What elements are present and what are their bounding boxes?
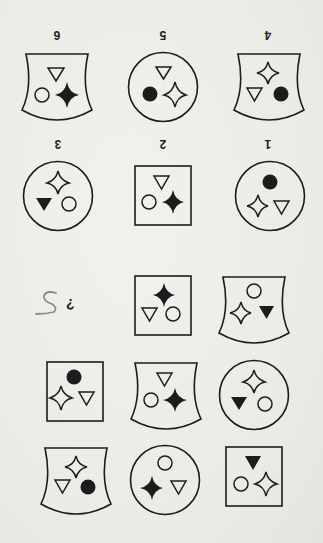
triangle-outline-icon bbox=[154, 176, 169, 189]
option-label-5: 5 bbox=[153, 28, 173, 42]
star-outline-icon bbox=[247, 195, 268, 217]
star-filled-icon bbox=[153, 283, 175, 307]
triangle-outline-icon bbox=[48, 68, 64, 81]
option-label-3: 3 bbox=[48, 137, 68, 151]
square-frame bbox=[135, 166, 191, 225]
triangle-filled-icon bbox=[245, 456, 261, 470]
triangle-outline-icon bbox=[171, 481, 186, 494]
circle-outline-icon bbox=[62, 197, 76, 211]
option-6[interactable] bbox=[20, 52, 94, 124]
matrix-cell-2-2 bbox=[129, 361, 203, 433]
triangle-outline-icon bbox=[55, 480, 70, 493]
shield-frame bbox=[219, 277, 289, 343]
option-2[interactable] bbox=[134, 165, 193, 227]
triangle-outline-icon bbox=[79, 392, 94, 405]
star-outline-icon bbox=[243, 370, 265, 393]
circle-frame bbox=[129, 53, 198, 122]
matrix-cell-3-2 bbox=[129, 443, 201, 517]
star-outline-icon bbox=[65, 456, 87, 478]
option-3[interactable] bbox=[22, 159, 94, 233]
square-frame bbox=[226, 447, 282, 506]
circle-filled-icon bbox=[274, 87, 289, 102]
missing-cell-question-mark[interactable]: ¿ bbox=[66, 294, 75, 310]
star-outline-icon bbox=[47, 171, 69, 194]
circle-frame bbox=[236, 162, 305, 231]
matrix-cell-1-2 bbox=[134, 275, 193, 337]
matrix-cell-3-3 bbox=[225, 446, 284, 508]
star-outline-icon bbox=[255, 472, 277, 496]
circle-outline-icon bbox=[166, 307, 180, 321]
triangle-outline-icon bbox=[157, 373, 172, 386]
star-outline-icon bbox=[257, 62, 279, 84]
matrix-cell-1-3 bbox=[217, 275, 291, 347]
circle-outline-icon bbox=[142, 195, 156, 209]
pencil-mark-5 bbox=[34, 290, 64, 316]
star-filled-icon bbox=[162, 190, 184, 214]
circle-outline-icon bbox=[258, 397, 272, 411]
star-outline-icon bbox=[230, 302, 251, 324]
star-filled-icon bbox=[55, 82, 79, 108]
triangle-outline-icon bbox=[274, 201, 289, 214]
matrix-cell-3-1 bbox=[39, 446, 113, 518]
triangle-filled-icon bbox=[231, 397, 247, 410]
option-label-2: 2 bbox=[153, 137, 173, 151]
circle-filled-icon bbox=[263, 175, 278, 190]
option-label-1: 1 bbox=[258, 137, 278, 151]
option-label-6: 6 bbox=[47, 28, 67, 42]
circle-outline-icon bbox=[247, 284, 261, 298]
triangle-outline-icon bbox=[247, 88, 262, 101]
option-1[interactable] bbox=[234, 159, 306, 233]
circle-outline-icon bbox=[35, 88, 49, 102]
matrix-cell-2-3 bbox=[218, 358, 290, 432]
star-outline-icon bbox=[50, 386, 72, 410]
circle-filled-icon bbox=[67, 370, 82, 385]
square-frame bbox=[135, 276, 191, 335]
triangle-outline-icon bbox=[142, 308, 157, 321]
option-label-4: 4 bbox=[258, 28, 278, 42]
circle-outline-icon bbox=[144, 393, 158, 407]
triangle-filled-icon bbox=[36, 198, 52, 211]
circle-outline-icon bbox=[234, 477, 248, 491]
triangle-outline-icon bbox=[156, 67, 171, 79]
shield-frame bbox=[22, 54, 92, 120]
circle-filled-icon bbox=[143, 87, 158, 102]
option-4[interactable] bbox=[232, 52, 306, 124]
triangle-filled-icon bbox=[259, 306, 274, 319]
puzzle-page: 6 5 4 3 2 1 bbox=[0, 0, 323, 543]
option-5[interactable] bbox=[127, 50, 199, 124]
star-filled-icon bbox=[163, 388, 187, 412]
circle-filled-icon bbox=[81, 480, 96, 495]
star-outline-icon bbox=[164, 82, 186, 107]
circle-outline-icon bbox=[158, 456, 172, 470]
star-filled-icon bbox=[140, 476, 163, 500]
matrix-cell-2-1 bbox=[46, 361, 105, 423]
